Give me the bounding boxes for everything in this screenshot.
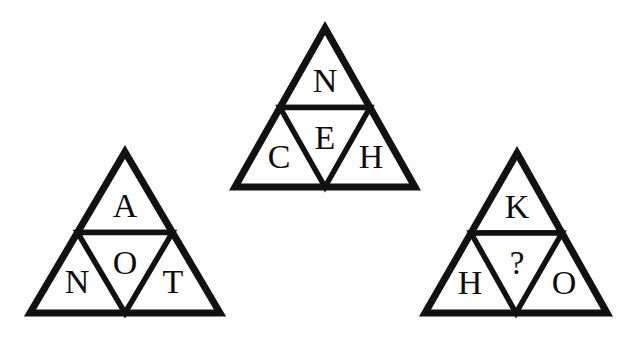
left-triangle-top-letter: A <box>113 187 138 224</box>
left-triangle[interactable]: A N O T <box>30 152 220 313</box>
left-triangle-center-letter: O <box>113 244 138 281</box>
right-triangle-top-letter: K <box>505 188 530 225</box>
right-triangle-center-unknown-marker: ? <box>510 245 525 281</box>
middle-triangle-top-letter: N <box>313 62 338 99</box>
middle-triangle[interactable]: N C E H <box>235 28 415 187</box>
triangles-figure: A N O T N C E H K H ? O <box>0 0 644 340</box>
right-triangle-bottom-left-letter: H <box>458 264 483 301</box>
middle-triangle-bottom-left-letter: C <box>268 138 291 175</box>
left-triangle-bottom-right-letter: T <box>163 263 184 300</box>
right-triangle[interactable]: K H ? O <box>425 153 607 313</box>
puzzle-canvas: A N O T N C E H K H ? O <box>0 0 644 340</box>
right-triangle-bottom-right-letter: O <box>552 264 577 301</box>
middle-triangle-center-letter: E <box>315 119 336 156</box>
middle-triangle-bottom-right-letter: H <box>359 138 384 175</box>
left-triangle-bottom-left-letter: N <box>65 263 90 300</box>
